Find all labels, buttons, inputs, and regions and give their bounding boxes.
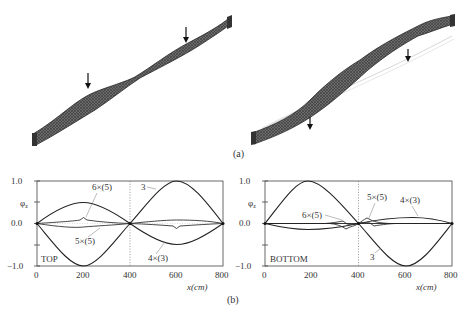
annotation-3: 3 <box>141 182 146 192</box>
figure: (a) 1.0 0.0 −1.0 φz 0 200 400 600 800 x(… <box>0 0 473 317</box>
plot-title-top: TOP <box>41 254 58 264</box>
panel-a-label: (a) <box>233 148 244 160</box>
chart-bottom: 1.0 0.0 −1.0 φz 0 200 400 600 800 x(cm) … <box>235 176 458 292</box>
annotation-5x5: 5×(5) <box>367 192 387 202</box>
panel-b-label: (b) <box>227 294 239 306</box>
chart-top: 1.0 0.0 −1.0 φz 0 200 400 600 800 x(cm) … <box>7 176 229 292</box>
x-tick-label: 200 <box>76 270 90 280</box>
y-tick-label: −1.0 <box>235 261 252 271</box>
load-arrow-right <box>183 27 189 43</box>
beam-top-loading <box>32 15 232 146</box>
y-tick-label: −1.0 <box>7 261 24 271</box>
annotation-4x3: 4×(3) <box>148 253 168 263</box>
annotation-6x5: 6×(5) <box>92 182 112 192</box>
load-arrow-left <box>85 73 91 89</box>
y-tick-label: 0.0 <box>239 218 251 228</box>
x-tick-label: 0 <box>262 270 267 280</box>
annotation-3: 3 <box>370 252 375 262</box>
y-axis-label: φz <box>20 198 28 209</box>
x-tick-label: 600 <box>398 270 412 280</box>
x-tick-label: 400 <box>123 270 137 280</box>
y-tick-label: 0.0 <box>11 218 23 228</box>
y-axis-label: φz <box>248 198 256 209</box>
x-axis-label: x(cm) <box>415 282 436 292</box>
x-tick-label: 0 <box>34 270 39 280</box>
load-arrow-right <box>405 49 411 62</box>
annotation-4x3: 4×(3) <box>400 195 420 205</box>
x-tick-label: 800 <box>444 270 458 280</box>
plot-title-bottom: BOTTOM <box>270 254 308 264</box>
beam-bottom-loading <box>251 14 455 145</box>
y-tick-label: 1.0 <box>239 176 251 186</box>
y-tick-label: 1.0 <box>11 176 23 186</box>
x-tick-label: 600 <box>169 270 183 280</box>
x-tick-label: 400 <box>351 270 365 280</box>
annotation-6x5: 6×(5) <box>302 210 322 220</box>
x-tick-label: 200 <box>304 270 318 280</box>
x-axis-label: x(cm) <box>186 282 207 292</box>
x-tick-label: 800 <box>215 270 229 280</box>
annotation-5x5: 5×(5) <box>75 236 95 246</box>
